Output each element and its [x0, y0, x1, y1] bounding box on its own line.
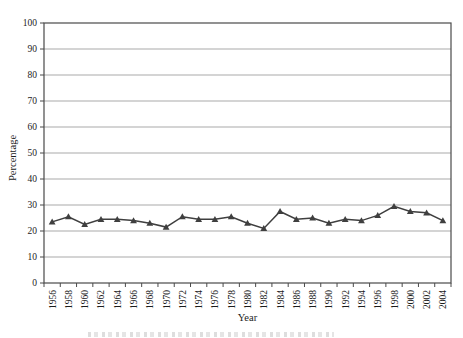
y-tick-label: 10	[28, 252, 38, 262]
data-point-marker	[65, 213, 72, 219]
x-tick-label: 1994	[357, 290, 367, 309]
data-point-marker	[228, 213, 235, 219]
y-tick-label: 40	[28, 174, 38, 184]
y-tick-label: 50	[28, 148, 38, 158]
y-tick-label: 90	[28, 44, 38, 54]
x-tick-label: 1974	[194, 290, 204, 309]
x-tick-label: 2000	[406, 290, 416, 309]
y-tick-label: 70	[28, 96, 38, 106]
x-tick-label: 1984	[276, 290, 286, 309]
x-tick-label: 2004	[438, 290, 448, 309]
x-tick-label: 1960	[80, 290, 90, 309]
x-tick-label: 1990	[324, 290, 334, 309]
chart-canvas: 0102030405060708090100195619581960196219…	[0, 0, 463, 338]
y-tick-label: 0	[32, 278, 37, 288]
x-tick-label: 1976	[210, 290, 220, 309]
y-tick-label: 30	[28, 200, 38, 210]
x-tick-label: 1996	[373, 290, 383, 309]
x-tick-label: 1956	[48, 290, 58, 309]
x-tick-label: 1964	[113, 290, 123, 309]
x-tick-label: 1988	[308, 290, 318, 309]
x-tick-label: 1970	[162, 290, 172, 309]
data-point-marker	[277, 208, 284, 214]
x-tick-label: 1962	[96, 290, 106, 309]
y-tick-label: 60	[28, 122, 38, 132]
x-tick-label: 1986	[292, 290, 302, 309]
y-tick-label: 100	[23, 18, 38, 28]
chart-figure: 0102030405060708090100195619581960196219…	[0, 0, 463, 338]
x-tick-label: 1982	[259, 290, 269, 309]
x-tick-label: 1998	[390, 290, 400, 309]
x-tick-label: 1978	[227, 290, 237, 309]
y-tick-label: 80	[28, 70, 38, 80]
x-tick-label: 1972	[178, 290, 188, 309]
data-point-marker	[179, 213, 186, 219]
x-tick-label: 1966	[129, 290, 139, 309]
x-tick-label: 1968	[145, 290, 155, 309]
cropped-caption-artifact	[88, 332, 334, 337]
y-axis-title: Percentage	[7, 135, 18, 181]
x-tick-label: 1958	[64, 290, 74, 309]
x-tick-label: 2002	[422, 290, 432, 309]
x-tick-label: 1992	[341, 290, 351, 309]
x-tick-label: 1980	[243, 290, 253, 309]
y-tick-label: 20	[28, 226, 38, 236]
data-point-marker	[391, 203, 398, 209]
x-axis-title: Year	[44, 312, 451, 323]
data-point-marker	[374, 212, 381, 218]
